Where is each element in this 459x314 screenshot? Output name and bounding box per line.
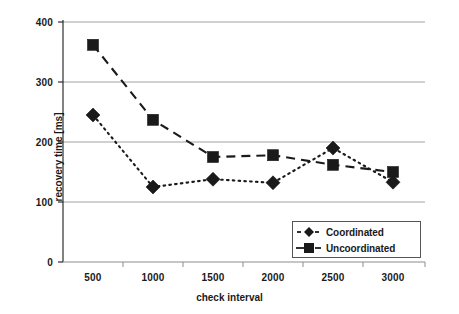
square-marker: [208, 152, 219, 163]
legend-label-coordinated: Coordinated: [326, 227, 384, 238]
legend-marker-diamond-icon: [296, 225, 326, 239]
x-tick-label-1500: 1500: [201, 272, 224, 283]
series-uncoordinated-line: [93, 45, 393, 172]
series-coordinated-markers: [86, 108, 400, 194]
diamond-marker: [266, 176, 280, 190]
legend-item-uncoordinated: Uncoordinated: [296, 240, 417, 256]
series-coordinated: [86, 108, 400, 194]
gridlines: [63, 22, 425, 202]
x-tick-label-2000: 2000: [261, 272, 284, 283]
x-tick-label-3000: 3000: [381, 272, 404, 283]
diamond-marker: [326, 141, 340, 155]
x-axis-ticks: [123, 262, 425, 267]
square-marker: [328, 159, 339, 170]
chart-legend: Coordinated Uncoordinated: [292, 221, 421, 258]
x-tick-label-2500: 2500: [321, 272, 344, 283]
x-tick-label-500: 500: [84, 272, 101, 283]
series-uncoordinated: [88, 39, 399, 177]
square-marker: [268, 150, 279, 161]
y-tick-label-300: 300: [28, 77, 53, 88]
x-axis-title: check interval: [0, 292, 459, 303]
y-tick-label-200: 200: [28, 137, 53, 148]
square-marker: [148, 114, 159, 125]
series-coordinated-line: [93, 115, 393, 187]
y-axis-title: recovery time [ms]: [53, 113, 64, 202]
legend-item-coordinated: Coordinated: [296, 224, 417, 240]
legend-marker-square-icon: [296, 241, 326, 255]
y-tick-label-0: 0: [28, 257, 53, 268]
y-tick-label-400: 400: [28, 17, 53, 28]
y-tick-label-100: 100: [28, 197, 53, 208]
legend-label-uncoordinated: Uncoordinated: [326, 243, 395, 254]
chart-container: 400 300 200 100 0 500 1000 1500 2000 250…: [0, 0, 459, 314]
x-tick-label-1000: 1000: [141, 272, 164, 283]
square-marker: [88, 39, 99, 50]
diamond-marker: [206, 172, 220, 186]
plot-area: [0, 0, 459, 314]
